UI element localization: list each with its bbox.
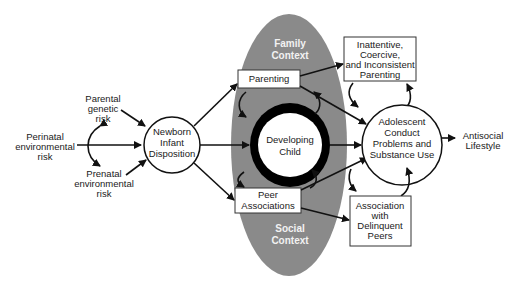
perinatal-risk-line3: risk [38,151,53,162]
prenatal-risk-line3: risk [97,188,112,199]
antisocial-lifestyle-line2: Lifestyle [466,140,501,151]
peer-associations-label-line2: Associations [241,200,295,211]
adolescent-label-line3: Problems and [373,138,432,149]
social-context-label-line2: Context [271,235,309,246]
inattentive-to-adolescent-curve-arrow [349,83,358,107]
family-context-label-line1: Family [274,38,306,49]
parental-genetic-risk-line3: risk [96,113,111,124]
developing-child-label-line2: Child [279,146,301,157]
developing-child-node [258,113,322,177]
adolescent-label-line4: Substance Use [370,149,434,160]
parental-genetic-risk: Parental genetic risk [85,93,120,124]
prenatal-to-newborn-arrow [126,160,146,175]
perinatal-environmental-risk: Perinatal environmental risk [15,131,75,162]
parenting-label: Parenting [249,73,290,84]
family-context-label-line2: Context [271,50,309,61]
prenatal-environmental-risk: Prenatal environmental risk [74,168,134,199]
inattentive-label-line4: Parenting [360,69,401,80]
developing-child-label-line1: Developing [266,134,314,145]
peer-associations-label-line1: Peer [258,189,278,200]
newborn-to-peer-arrow [194,163,234,200]
adolescent-to-delinquent-curve-arrow [349,169,356,191]
developmental-pathway-diagram: Family Context Social Context Developing… [0,0,508,291]
genetic-prenatal-correlation-arrow [88,126,100,166]
newborn-label-line2: Infant [160,137,184,148]
adolescent-label-line2: Conduct [384,127,420,138]
newborn-to-parenting-arrow [194,84,237,126]
delinquent-label-line4: Peers [368,230,393,241]
adolescent-label-line1: Adolescent [378,116,425,127]
genetic-to-newborn-arrow [121,110,145,126]
social-context-label-line1: Social [275,223,305,234]
newborn-label-line3: Disposition [149,148,195,159]
newborn-label-line1: Newborn [153,126,191,137]
